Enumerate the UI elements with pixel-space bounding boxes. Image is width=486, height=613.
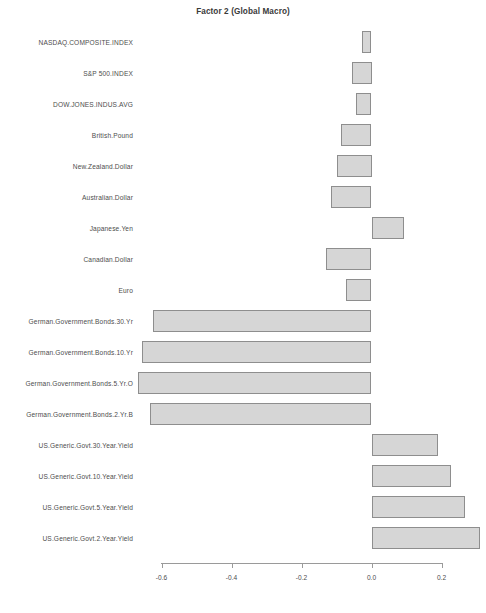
x-axis-tick [442,563,443,568]
bar [372,527,481,549]
bar [331,186,372,208]
x-axis-tick-label: -0.6 [156,574,167,581]
bar-row: Euro [0,274,486,305]
bar-category-label: German.Government.Bonds.30.Yr [29,317,133,324]
bar-row: Japanese.Yen [0,212,486,243]
bar-row: German.Government.Bonds.10.Yr [0,336,486,367]
x-axis: -0.6-0.4-0.20.00.2 [0,563,486,603]
bar [326,248,372,270]
bar-row: NASDAQ.COMPOSITE.INDEX [0,26,486,57]
bar [153,310,371,332]
x-axis-tick [372,563,373,568]
bar-category-label: German.Government.Bonds.2.Yr.B [26,410,133,417]
bar [352,62,371,84]
chart-title: Factor 2 (Global Macro) [0,7,486,16]
x-axis-tick-label: 0.0 [367,574,376,581]
bar [341,124,372,146]
bar [372,217,404,239]
bar [346,279,372,301]
bar-category-label: Japanese.Yen [90,224,133,231]
bar-row: German.Government.Bonds.30.Yr [0,305,486,336]
bar [362,31,371,53]
x-axis-tick [232,563,233,568]
bar [138,372,371,394]
bar [142,341,372,363]
x-axis-tick-label: -0.4 [226,574,237,581]
bar [150,403,371,425]
factor-loading-bar-chart: Factor 2 (Global Macro) NASDAQ.COMPOSITE… [0,0,486,613]
bar-row: German.Government.Bonds.2.Yr.B [0,398,486,429]
bar-row: S&P 500.INDEX [0,57,486,88]
bar-category-label: Euro [118,286,133,293]
bar [372,496,465,518]
bar-category-label: Canadian.Dollar [83,255,133,262]
plot-area: NASDAQ.COMPOSITE.INDEXS&P 500.INDEXDOW.J… [0,26,486,551]
x-axis-tick [162,563,163,568]
bar-category-label: Australian.Dollar [82,193,133,200]
bar [372,434,439,456]
bar-row: New.Zealand.Dollar [0,150,486,181]
bar [356,93,371,115]
bar-category-label: NASDAQ.COMPOSITE.INDEX [38,38,133,45]
bar [337,155,372,177]
bar-category-label: German.Government.Bonds.5.Yr.O [26,379,133,386]
bar-category-label: German.Government.Bonds.10.Yr [29,348,133,355]
bar-category-label: US.Generic.Govt.5.Year.Yield [42,503,133,510]
bar-category-label: US.Generic.Govt.10.Year.Yield [39,472,133,479]
bar-row: US.Generic.Govt.2.Year.Yield [0,522,486,553]
bar-row: US.Generic.Govt.30.Year.Yield [0,429,486,460]
bar-category-label: British.Pound [92,131,133,138]
bar-category-label: US.Generic.Govt.2.Year.Yield [42,534,133,541]
bar-category-label: S&P 500.INDEX [83,69,133,76]
bar [372,465,452,487]
bar-category-label: US.Generic.Govt.30.Year.Yield [39,441,133,448]
bar-row: DOW.JONES.INDUS.AVG [0,88,486,119]
x-axis-tick-label: 0.2 [437,574,446,581]
bar-row: Canadian.Dollar [0,243,486,274]
x-axis-tick-label: -0.2 [296,574,307,581]
bar-category-label: DOW.JONES.INDUS.AVG [53,100,133,107]
bar-row: US.Generic.Govt.10.Year.Yield [0,460,486,491]
x-axis-tick [302,563,303,568]
bar-row: German.Government.Bonds.5.Yr.O [0,367,486,398]
bar-category-label: New.Zealand.Dollar [73,162,133,169]
bar-row: Australian.Dollar [0,181,486,212]
bar-row: British.Pound [0,119,486,150]
bar-row: US.Generic.Govt.5.Year.Yield [0,491,486,522]
